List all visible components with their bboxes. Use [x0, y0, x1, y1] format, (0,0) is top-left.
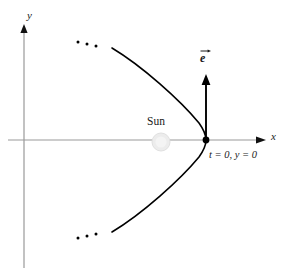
parabolic-orbit-figure: y x Sun t = 0, y = 0 e [0, 0, 293, 276]
origin-point [203, 137, 210, 144]
y-axis-label: y [27, 10, 32, 21]
e-vector-label: e [200, 52, 205, 64]
y-axis-arrowhead [20, 24, 27, 33]
figure-canvas [0, 0, 293, 276]
trajectory-ellipsis-upper [77, 41, 98, 48]
e-vector-arrowhead [202, 74, 211, 85]
trajectory-ellipsis-lower [77, 233, 98, 240]
origin-condition-label: t = 0, y = 0 [209, 150, 257, 161]
sun-label: Sun [147, 116, 165, 128]
x-axis-label: x [271, 131, 276, 142]
x-axis-arrowhead [256, 136, 266, 143]
e-vector-label-text: e [200, 52, 205, 64]
sun-marker [152, 133, 170, 151]
